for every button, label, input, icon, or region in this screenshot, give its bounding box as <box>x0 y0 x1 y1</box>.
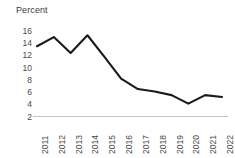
plot-area <box>0 0 235 158</box>
data-series-line <box>37 35 222 103</box>
line-chart: Percent 161412108642 2011201220132014201… <box>0 0 235 158</box>
